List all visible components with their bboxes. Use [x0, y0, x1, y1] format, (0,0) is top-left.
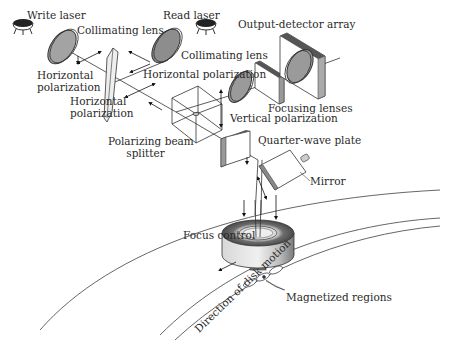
label-polarizing-beam-splitter: Polarizing beam splitter: [108, 135, 183, 159]
label-magnetized-regions: Magnetized regions: [286, 291, 392, 303]
label-line: polarization: [37, 81, 87, 93]
label-quarter-wave-plate: Quarter-wave plate: [258, 134, 361, 146]
label-focus-control: Focus control: [183, 229, 255, 241]
label-collimating-lens-1: Collimating lens: [77, 24, 164, 36]
mirror: [259, 150, 310, 190]
label-horizontal-polarization-left: Horizontal polarization: [37, 69, 87, 93]
label-horizontal-polarization-right: Horizontal polarization: [143, 68, 266, 80]
label-line: splitter: [108, 147, 183, 159]
read-laser-icon: [196, 19, 216, 35]
write-laser-icon: [13, 19, 33, 35]
label-mirror: Mirror: [310, 175, 346, 187]
label-horizontal-polarization-middle: Horizontal polarization: [70, 95, 120, 119]
label-line: Horizontal: [37, 69, 87, 81]
label-output-detector-array: Output-detector array: [238, 18, 355, 30]
diagram-canvas: Write laser Read laser Collimating lens …: [0, 0, 458, 351]
output-detector-array: [279, 33, 325, 99]
label-line: Polarizing beam: [108, 135, 183, 147]
label-vertical-polarization: Vertical polarization: [230, 112, 338, 124]
quarter-wave-plate: [221, 130, 250, 167]
label-write-laser: Write laser: [27, 9, 86, 21]
label-collimating-lens-2: Collimating lens: [181, 49, 268, 61]
label-read-laser: Read laser: [163, 9, 220, 21]
label-line: polarization: [70, 107, 120, 119]
label-line: Horizontal: [70, 95, 120, 107]
track-arc-2: [175, 226, 440, 340]
